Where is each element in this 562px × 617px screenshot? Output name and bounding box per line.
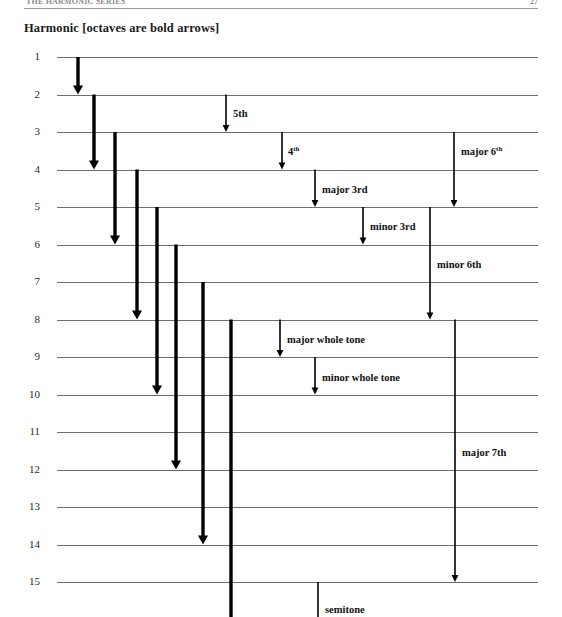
interval-label-major-third: major 3rd — [322, 184, 368, 195]
interval-arrow-fourth — [279, 132, 286, 170]
octave-arrow-octave-7-14 — [198, 282, 208, 545]
interval-arrow-fifth — [223, 95, 230, 133]
gridline-row-13 — [57, 507, 538, 508]
row-label-14: 14 — [14, 538, 40, 550]
row-label-12: 12 — [14, 463, 40, 475]
interval-label-fifth: 5th — [233, 108, 248, 119]
row-label-9: 9 — [14, 350, 40, 362]
row-label-2: 2 — [14, 88, 40, 100]
gridline-row-11 — [57, 432, 538, 433]
arrow-layer — [0, 0, 562, 617]
interval-arrow-major-seventh — [452, 320, 459, 583]
interval-label-semitone: semitone — [325, 604, 365, 615]
gridline-row-10 — [57, 395, 538, 396]
interval-arrow-major-whole-tone — [277, 320, 284, 358]
gridline-row-5 — [57, 207, 538, 208]
row-label-1: 1 — [14, 50, 40, 62]
gridline-row-9 — [57, 357, 538, 358]
gridline-row-3 — [57, 132, 538, 133]
octave-arrow-octave-5-10 — [152, 207, 162, 395]
interval-label-minor-sixth: minor 6th — [437, 259, 481, 270]
row-label-10: 10 — [14, 388, 40, 400]
interval-arrow-minor-sixth — [427, 207, 434, 320]
gridline-row-8 — [57, 320, 538, 321]
row-label-15: 15 — [14, 575, 40, 587]
octave-arrow-octave-1-2 — [73, 57, 83, 95]
interval-label-major-seventh: major 7th — [462, 447, 506, 458]
gridline-row-4 — [57, 170, 538, 171]
interval-label-major-sixth: major 6th — [461, 146, 502, 157]
gridline-row-6 — [57, 245, 538, 246]
row-label-7: 7 — [14, 275, 40, 287]
interval-label-major-whole-tone: major whole tone — [287, 334, 365, 345]
octave-arrow-octave-3-6 — [110, 132, 120, 245]
gridline-row-15 — [57, 582, 538, 583]
interval-label-minor-third: minor 3rd — [370, 221, 416, 232]
row-label-8: 8 — [14, 313, 40, 325]
gridline-row-7 — [57, 282, 538, 283]
gridline-row-14 — [57, 545, 538, 546]
interval-arrow-major-third — [312, 170, 319, 208]
gridline-row-1 — [57, 57, 538, 58]
figure-page: THE HARMONIC SERIES 27 Harmonic [octaves… — [0, 0, 562, 617]
interval-label-minor-whole-tone: minor whole tone — [322, 372, 400, 383]
harmonic-series-plot: 123456789101112131415 5th4thmajor 6thmaj… — [0, 0, 562, 617]
row-label-11: 11 — [14, 425, 40, 437]
row-label-6: 6 — [14, 238, 40, 250]
row-label-5: 5 — [14, 200, 40, 212]
row-label-13: 13 — [14, 500, 40, 512]
interval-label-fourth: 4th — [288, 146, 299, 157]
row-label-3: 3 — [14, 125, 40, 137]
interval-arrow-minor-third — [360, 207, 367, 245]
gridline-row-12 — [57, 470, 538, 471]
interval-arrow-minor-whole-tone — [312, 357, 319, 395]
row-label-4: 4 — [14, 163, 40, 175]
gridline-row-2 — [57, 95, 538, 96]
